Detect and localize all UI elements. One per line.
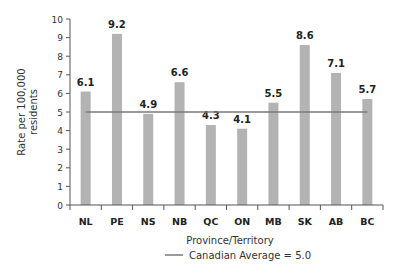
value-label: 6.6 <box>171 67 189 78</box>
bar-qc <box>206 125 216 205</box>
y-axis: 012345678910 <box>52 15 70 211</box>
bar-ns <box>143 114 153 205</box>
category-label: ON <box>234 216 250 227</box>
x-axis: NLPENSNBQCONMBSKABBC <box>70 205 383 227</box>
value-label: 7.1 <box>327 58 345 69</box>
bar-nl <box>81 92 91 205</box>
value-label: 4.9 <box>139 99 157 110</box>
category-label: MB <box>265 216 282 227</box>
value-label: 8.6 <box>296 30 314 41</box>
y-axis-title-line: Rate per 100,000 <box>16 68 27 155</box>
category-label: NB <box>172 216 187 227</box>
y-tick-label: 3 <box>57 145 63 155</box>
bar-bc <box>362 99 372 205</box>
bar-on <box>237 129 247 205</box>
value-label: 6.1 <box>77 77 95 88</box>
y-axis-title: Rate per 100,000residents <box>16 68 39 155</box>
bar-mb <box>268 103 278 205</box>
y-tick-label: 2 <box>57 163 63 173</box>
value-label: 4.1 <box>233 114 251 125</box>
bar-ab <box>331 73 341 205</box>
bar-nb <box>175 82 185 205</box>
value-label: 5.7 <box>358 84 376 95</box>
y-tick-label: 8 <box>57 52 63 62</box>
category-label: QC <box>203 216 218 227</box>
value-label: 5.5 <box>265 88 283 99</box>
y-tick-label: 4 <box>57 126 63 136</box>
y-tick-label: 5 <box>57 108 63 118</box>
legend-label: Canadian Average = 5.0 <box>189 250 311 261</box>
y-tick-label: 9 <box>57 33 63 43</box>
category-label: NS <box>141 216 156 227</box>
bar-chart: 012345678910 6.19.24.96.64.34.15.58.67.1… <box>0 0 400 274</box>
legend: Canadian Average = 5.0 <box>165 250 311 261</box>
y-tick-label: 7 <box>57 70 63 80</box>
y-tick-label: 1 <box>57 182 63 192</box>
y-axis-title-line: residents <box>28 89 39 135</box>
category-label: SK <box>298 216 313 227</box>
bar-pe <box>112 34 122 205</box>
category-label: BC <box>360 216 374 227</box>
y-tick-label: 6 <box>57 89 63 99</box>
x-axis-title: Province/Territory <box>186 235 273 246</box>
bar-sk <box>300 45 310 205</box>
y-tick-label: 10 <box>52 15 64 25</box>
y-tick-label: 0 <box>57 201 63 211</box>
value-label: 9.2 <box>108 19 126 30</box>
category-label: NL <box>79 216 93 227</box>
category-label: AB <box>329 216 344 227</box>
category-label: PE <box>110 216 123 227</box>
